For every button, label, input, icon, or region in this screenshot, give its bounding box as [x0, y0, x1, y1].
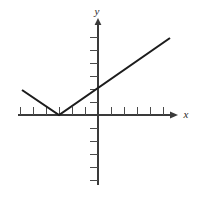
- y-axis-group: y: [94, 5, 102, 185]
- y-axis-label: y: [94, 5, 100, 17]
- x-axis-ticks-group: [20, 107, 163, 115]
- x-axis-label: x: [183, 108, 189, 120]
- x-axis-arrow-icon: [170, 112, 178, 119]
- graph-figure: x y: [0, 0, 202, 202]
- y-axis-ticks-group: [90, 37, 98, 180]
- y-axis-arrow-icon: [95, 18, 102, 25]
- coordinate-plane-plot: x y: [0, 0, 202, 202]
